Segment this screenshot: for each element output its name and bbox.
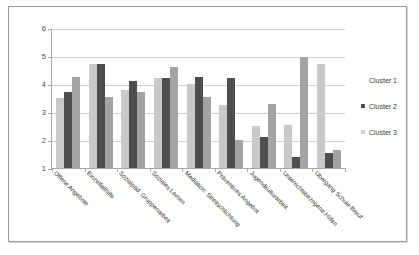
chart-page: 123456 Offene AngeboteEinzelfallhilfeSoz… <box>0 0 419 255</box>
bar[interactable] <box>162 78 170 168</box>
y-axis-tick-label: 3 <box>42 109 46 117</box>
legend-item-label: Cluster 3 <box>369 129 397 136</box>
bar[interactable] <box>317 64 325 168</box>
plot-area: 123456 <box>51 29 345 169</box>
bar[interactable] <box>121 90 129 168</box>
x-axis-category-label: Mediation: Streitschlichtung <box>183 170 241 228</box>
chart-frame: 123456 Offene AngeboteEinzelfallhilfeSoz… <box>8 6 407 242</box>
x-axis-category-label: Offene Angebote <box>52 170 89 207</box>
legend-item[interactable]: Cluster 1 <box>361 67 419 93</box>
chart-legend: Cluster 1Cluster 2Cluster 3 <box>361 67 419 145</box>
y-axis-tick-label: 6 <box>42 25 46 33</box>
y-axis-tick-label: 5 <box>42 53 46 61</box>
bar[interactable] <box>129 81 137 168</box>
bar[interactable] <box>292 157 300 168</box>
bar[interactable] <box>260 137 268 168</box>
legend-item-label: Cluster 1 <box>369 77 397 84</box>
bar[interactable] <box>64 92 72 168</box>
bar[interactable] <box>89 64 97 168</box>
bar[interactable] <box>72 77 80 168</box>
x-axis-category-label: Einzelfallhilfe <box>85 170 115 200</box>
bar[interactable] <box>268 104 276 168</box>
bar[interactable] <box>300 57 308 168</box>
legend-item[interactable]: Cluster 2 <box>361 93 419 119</box>
legend-item[interactable]: Cluster 3 <box>361 119 419 145</box>
x-axis-category-label: Unterrichtsbezogene Hilfen <box>281 170 338 227</box>
y-axis-tick-label: 2 <box>42 137 46 145</box>
x-axis-category-labels: Offene AngeboteEinzelfallhilfeSozialpäd.… <box>51 170 345 240</box>
legend-swatch-icon <box>361 104 365 108</box>
bar[interactable] <box>137 92 145 168</box>
bar[interactable] <box>56 98 64 168</box>
bars-layer <box>52 29 345 168</box>
bar[interactable] <box>284 125 292 168</box>
bar[interactable] <box>333 150 341 168</box>
legend-swatch-icon <box>361 130 365 134</box>
y-axis-tick-label: 1 <box>42 165 46 173</box>
bar[interactable] <box>170 67 178 168</box>
bar[interactable] <box>187 84 195 168</box>
x-axis-category-label: Soziales Lernen <box>150 170 186 206</box>
bar[interactable] <box>325 153 333 168</box>
bar-group <box>52 29 85 168</box>
legend-swatch-icon <box>361 78 365 82</box>
bar[interactable] <box>195 77 203 168</box>
bar-group <box>150 29 183 168</box>
legend-item-label: Cluster 2 <box>369 103 397 110</box>
bar[interactable] <box>219 105 227 168</box>
bar[interactable] <box>227 78 235 168</box>
bar-group <box>313 29 346 168</box>
bar-group <box>280 29 313 168</box>
bar-group <box>247 29 280 168</box>
bar-group <box>117 29 150 168</box>
bar[interactable] <box>154 78 162 168</box>
bar-group <box>85 29 118 168</box>
bar[interactable] <box>235 140 243 168</box>
bar[interactable] <box>252 126 260 168</box>
bar[interactable] <box>105 97 113 168</box>
bar-group <box>182 29 215 168</box>
x-axis-tick <box>345 168 346 172</box>
bar[interactable] <box>203 97 211 168</box>
bar[interactable] <box>97 64 105 168</box>
bar-group <box>215 29 248 168</box>
y-axis-tick-label: 4 <box>42 81 46 89</box>
